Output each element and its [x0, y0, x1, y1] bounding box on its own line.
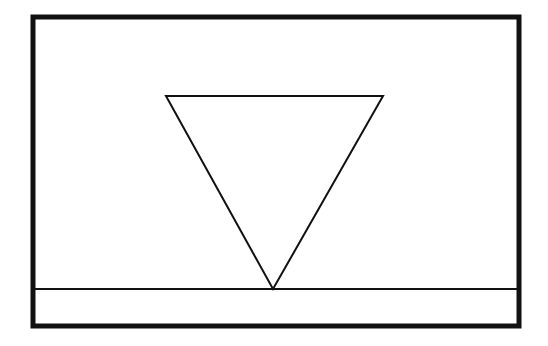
- background: [0, 0, 548, 346]
- diagram-canvas: [0, 0, 548, 346]
